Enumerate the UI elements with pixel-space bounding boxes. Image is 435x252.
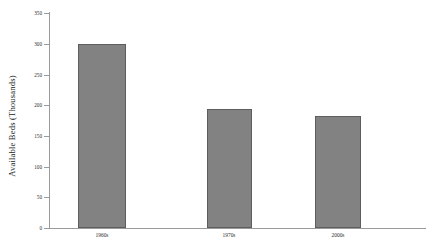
y-tick-label: 100 <box>16 164 42 170</box>
y-tick-label: 50 <box>16 194 42 200</box>
y-tick-mark <box>44 228 49 229</box>
y-axis-title: Available Beds (Thousands) <box>0 0 24 252</box>
y-tick-label: 300 <box>16 41 42 47</box>
y-tick-mark <box>44 197 49 198</box>
y-tick-mark <box>44 167 49 168</box>
x-tick-label-1960s: 1960s <box>72 232 132 239</box>
bar-2000s[interactable] <box>315 116 361 228</box>
bar-1970s[interactable] <box>207 109 252 228</box>
y-tick-mark <box>44 105 49 106</box>
y-tick-mark <box>44 136 49 137</box>
y-tick-label: 150 <box>16 133 42 139</box>
y-tick-mark <box>44 44 49 45</box>
y-axis-line <box>49 12 50 229</box>
y-tick-label: 200 <box>16 102 42 108</box>
x-tick-label-1970s: 1970s <box>199 232 259 239</box>
bar-1960s[interactable] <box>78 44 126 228</box>
bar-chart: Available Beds (Thousands) 350 300 250 2… <box>0 0 435 252</box>
x-tick-label-2000s: 2000s <box>308 232 368 239</box>
y-tick-label: 250 <box>16 72 42 78</box>
y-tick-mark <box>44 75 49 76</box>
y-tick-mark <box>44 13 49 14</box>
y-tick-label: 0 <box>16 225 42 231</box>
x-axis-line <box>49 228 426 229</box>
y-tick-label: 350 <box>16 10 42 16</box>
